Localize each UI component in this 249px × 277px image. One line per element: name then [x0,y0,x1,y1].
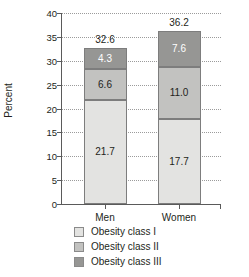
y-axis-tick [57,13,61,14]
y-axis-tick-label: 10 [46,151,57,162]
bar-segment-women-class-1[interactable]: 17.7 [158,119,201,204]
plot-area: 21.76.64.332.617.711.07.636.2 [61,13,221,204]
bar-total-label-men: 32.6 [84,34,127,45]
x-axis-label-women: Women [144,212,214,223]
y-axis-tick-label: 40 [46,8,57,19]
legend-label: Obesity class I [91,226,156,237]
legend-item-3[interactable]: Obesity class III [74,255,162,268]
y-axis-tick [57,156,61,157]
bar-total-label-women: 36.2 [158,17,201,28]
legend-swatch-icon [74,242,84,252]
y-axis-tick [57,109,61,110]
segment-value-label: 17.7 [169,157,188,167]
legend-item-1[interactable]: Obesity class I [74,225,162,238]
y-axis-tick [57,132,61,133]
y-axis-tick [57,180,61,181]
segment-value-label: 6.6 [98,80,112,90]
y-axis-tick [57,37,61,38]
y-axis-tick-label: 35 [46,31,57,42]
y-axis-tick [57,61,61,62]
y-axis-tick-label: 30 [46,55,57,66]
y-axis-tick-label: 15 [46,127,57,138]
legend-label: Obesity class II [91,241,159,252]
x-axis-tick-end [220,204,221,209]
bar-segment-men-class-2[interactable]: 6.6 [84,69,127,101]
chart-legend: Obesity class IObesity class IIObesity c… [74,225,162,268]
y-axis-tick-label: 20 [46,103,57,114]
x-axis-label-men: Men [70,212,140,223]
x-axis-tick [179,204,180,209]
stacked-bar-chart: Percent 0510152025303540 21.76.64.332.61… [0,0,249,277]
legend-swatch-icon [74,227,84,237]
x-axis-line [61,204,221,205]
y-axis-tick [57,85,61,86]
bar-women[interactable]: 17.711.07.6 [158,13,201,204]
y-axis-tick [57,204,61,205]
bar-segment-men-class-3[interactable]: 4.3 [84,48,127,69]
y-axis-title: Percent [3,83,14,117]
y-axis-tick-label: 25 [46,79,57,90]
legend-item-2[interactable]: Obesity class II [74,240,162,253]
segment-value-label: 7.6 [172,44,186,54]
segment-value-label: 4.3 [98,54,112,64]
legend-label: Obesity class III [91,256,162,267]
bar-segment-women-class-2[interactable]: 11.0 [158,67,201,120]
segment-value-label: 11.0 [170,88,189,98]
bar-segment-men-class-1[interactable]: 21.7 [84,100,127,204]
segment-value-label: 21.7 [95,147,114,157]
legend-swatch-icon [74,257,84,267]
y-axis-tick-labels: 0510152025303540 [28,13,57,204]
x-axis-tick [105,204,106,209]
bar-segment-women-class-3[interactable]: 7.6 [158,31,201,67]
